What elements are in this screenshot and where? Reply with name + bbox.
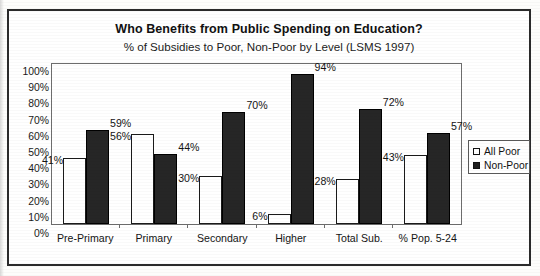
bar-poor-secondary[interactable]: 30% (199, 176, 222, 224)
white-square-icon (473, 148, 480, 155)
bar-poor-primary[interactable]: 56% (131, 134, 154, 224)
x-axis-tick-label: Higher (257, 232, 326, 248)
bar-nonpoor-pre-primary[interactable]: 59% (86, 130, 109, 224)
x-axis-tick-label: Pre-Primary (51, 232, 120, 248)
bar-value-label: 6% (252, 211, 267, 222)
bar-value-label: 56% (110, 131, 131, 142)
y-axis-tick: 60% (28, 132, 49, 142)
legend-item-non-poor[interactable]: Non-Poor (473, 158, 529, 172)
bar-group: 56%44% (120, 64, 188, 224)
bar-poor-higher[interactable]: 6% (268, 214, 291, 224)
bar-value-label: 57% (451, 121, 472, 132)
bar-group: 41%59% (52, 64, 120, 224)
bar-group: 30%70% (188, 64, 256, 224)
legend-label-all-poor: All Poor (484, 146, 520, 157)
bar-nonpoor-total-sub[interactable]: 72% (359, 109, 382, 224)
y-axis-tick: 100% (22, 67, 49, 77)
chart-title: Who Benefits from Public Spending on Edu… (9, 22, 529, 36)
bar-value-label: 41% (42, 155, 63, 166)
legend-item-all-poor[interactable]: All Poor (473, 144, 529, 158)
bar-group: 43%57% (393, 64, 461, 224)
bar-poor-pre-primary[interactable]: 41% (63, 158, 86, 224)
y-axis-tick: 30% (28, 180, 49, 190)
scan-edge-shadow (0, 0, 4, 276)
bar-group: 6%94% (257, 64, 325, 224)
bar-group: 28%72% (325, 64, 393, 224)
bar-nonpoor-higher[interactable]: 94% (291, 74, 314, 224)
bar-value-label: 43% (383, 152, 404, 163)
bar-value-label: 30% (178, 173, 199, 184)
bar-groups: 41%59%56%44%30%70%6%94%28%72%43%57% (52, 64, 461, 224)
bar-value-label: 28% (315, 176, 336, 187)
y-axis-tick: 0% (34, 229, 49, 239)
bar-poor-total-sub[interactable]: 28% (336, 179, 359, 224)
plot-area: 41%59%56%44%30%70%6%94%28%72%43%57% (51, 63, 462, 225)
x-axis-tick-label: Secondary (188, 232, 257, 248)
black-square-icon (473, 162, 480, 169)
legend-label-non-poor: Non-Poor (484, 160, 528, 171)
y-axis-tick: 20% (28, 197, 49, 207)
y-axis-tick: 90% (28, 83, 49, 93)
y-axis-tick: 80% (28, 99, 49, 109)
bar-nonpoor-secondary[interactable]: 70% (222, 112, 245, 224)
bar-nonpoor-pop-5-24[interactable]: 57% (427, 133, 450, 224)
x-axis-tick-label: Primary (120, 232, 189, 248)
x-axis-tick-label: Total Sub. (325, 232, 394, 248)
bar-nonpoor-primary[interactable]: 44% (154, 154, 177, 224)
x-axis: Pre-PrimaryPrimarySecondaryHigherTotal S… (51, 232, 462, 248)
y-axis-tick: 10% (28, 213, 49, 223)
y-axis-tick: 70% (28, 116, 49, 126)
x-axis-tick-label: % Pop. 5-24 (394, 232, 463, 248)
bar-poor-pop-5-24[interactable]: 43% (404, 155, 427, 224)
chart-legend: All Poor Non-Poor (468, 140, 530, 174)
chart-subtitle: % of Subsidies to Poor, Non-Poor by Leve… (9, 40, 529, 53)
y-axis: 100%90%80%70%60%50%40%30%20%10%0% (13, 57, 49, 231)
chart-frame: Who Benefits from Public Spending on Edu… (7, 9, 531, 266)
